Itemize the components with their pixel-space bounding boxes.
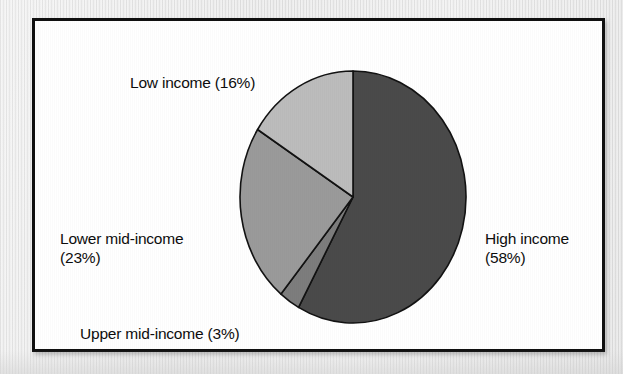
pie-label-high-income: High income (58%) xyxy=(485,229,569,267)
pie-label-lower-mid-income: Lower mid-income (23%) xyxy=(60,229,183,267)
pie-label-upper-mid-income: Upper mid-income (3%) xyxy=(80,324,239,343)
pie-label-low-income: Low income (16%) xyxy=(130,73,255,92)
pie-chart xyxy=(35,21,602,349)
pie-slice-group xyxy=(240,71,466,323)
figure-frame: Low income (16%) Lower mid-income (23%) … xyxy=(32,18,605,352)
scanned-page: Low income (16%) Lower mid-income (23%) … xyxy=(0,0,623,374)
